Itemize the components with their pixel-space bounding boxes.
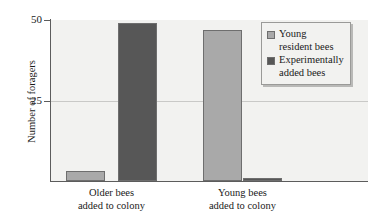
legend-label-line: added bees	[279, 67, 325, 78]
x-axis-line	[50, 181, 368, 182]
bar-older-young-resident	[66, 171, 105, 181]
bar-young-young-resident	[203, 30, 242, 181]
legend-label-line: Experimentally	[279, 54, 344, 65]
y-tick-label-50: 50	[31, 14, 42, 25]
x-category-label-line: Older bees	[42, 186, 182, 199]
y-tick-mark-25	[44, 101, 50, 102]
x-category-label-line: added to colony	[173, 199, 313, 212]
legend-label-young-resident-bees: Young resident bees	[279, 28, 334, 53]
legend-item-young-resident-bees: Young resident bees	[267, 28, 344, 53]
bar-older-added	[118, 23, 157, 181]
legend-label-experimentally-added-bees: Experimentally added bees	[279, 54, 344, 79]
y-axis-line	[50, 19, 51, 182]
legend-item-experimentally-added-bees: Experimentally added bees	[267, 54, 344, 79]
legend-label-line: resident bees	[279, 41, 334, 52]
legend-swatch-icon-experimentally-added-bees	[267, 57, 275, 65]
x-category-label-older-bees: Older bees added to colony	[42, 186, 182, 212]
x-category-label-line: added to colony	[42, 199, 182, 212]
bar-young-added	[243, 178, 282, 181]
legend: Young resident bees Experimentally added…	[261, 22, 351, 85]
x-category-label-line: Young bees	[173, 186, 313, 199]
x-category-label-young-bees: Young bees added to colony	[173, 186, 313, 212]
y-axis-title: Number of foragers	[26, 27, 37, 177]
bar-chart: 50 25 Number of foragers Older bees adde…	[0, 0, 385, 223]
legend-label-line: Young	[279, 28, 307, 39]
y-tick-mark-50	[44, 20, 50, 21]
legend-swatch-icon-young-resident-bees	[267, 31, 275, 39]
